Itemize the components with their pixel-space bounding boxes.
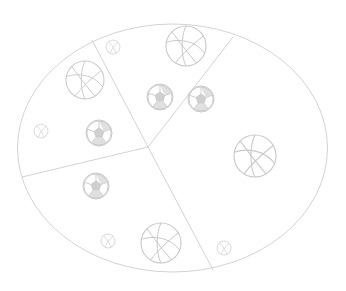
- soccerball-center-upper: [147, 84, 173, 110]
- sector-diagram-svg: [0, 0, 346, 291]
- soccerball-lower-left: [83, 173, 109, 199]
- diagram-canvas: Sports Ball Sector Diagram pie Ellipse d…: [0, 0, 346, 291]
- soccerball-left-upper: [86, 120, 112, 146]
- soccerball-center-right: [188, 86, 214, 112]
